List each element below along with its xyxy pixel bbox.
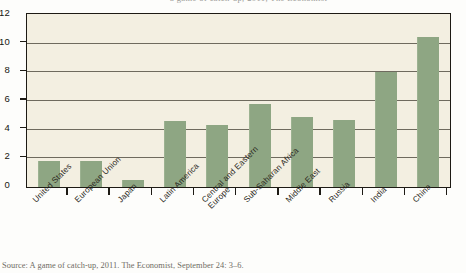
x-axis-tick-mark [66, 188, 68, 195]
chart-page: a game of catch-up, 2011, The Economist … [0, 0, 466, 273]
y-axis-tick-mark [20, 41, 26, 42]
x-axis-tick-mark [362, 188, 364, 195]
y-axis-tick-mark [20, 156, 26, 157]
x-axis-tick-mark [404, 188, 406, 195]
y-axis-tick-label: 4 [0, 122, 10, 133]
x-axis-tick-mark [277, 188, 279, 195]
x-axis-tick-mark [151, 188, 153, 195]
x-axis-tick-mark [235, 188, 237, 195]
bar [333, 120, 355, 187]
y-axis-tick-label: 12 [0, 7, 10, 18]
source-caption: Source: A game of catch-up, 2011. The Ec… [2, 261, 244, 270]
y-axis-tick-mark [20, 98, 26, 99]
cut-off-title-text: a game of catch-up, 2011, The Economist [170, 0, 327, 3]
x-axis-tick-mark [446, 188, 448, 195]
y-axis-tick-label: 10 [0, 36, 10, 47]
y-axis-tick-label: 0 [0, 179, 10, 190]
x-axis-tick-mark [319, 188, 321, 195]
bar [417, 37, 439, 188]
cut-off-title-strip: a game of catch-up, 2011, The Economist [0, 0, 466, 9]
y-axis-tick-mark [20, 70, 26, 71]
y-axis-tick-label: 8 [0, 64, 10, 75]
y-axis-tick-label: 6 [0, 93, 10, 104]
bar [375, 72, 397, 187]
x-axis-tick-mark [193, 188, 195, 195]
y-axis-tick-mark [20, 127, 26, 128]
x-axis-tick-mark [108, 188, 110, 195]
y-axis-tick-label: 2 [0, 150, 10, 161]
